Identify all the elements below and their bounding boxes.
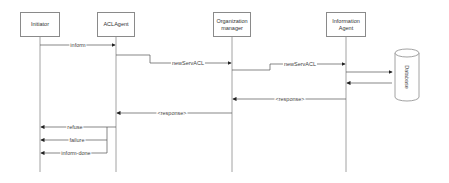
participant-orgmanager: Organization manager	[213, 12, 251, 37]
participant-label: Organization manager	[214, 18, 250, 32]
participant-infoagent: Information Agent	[326, 12, 366, 37]
label-response-2: <response>	[156, 110, 187, 116]
label-failure: failure	[69, 137, 86, 143]
database-label: Database	[404, 65, 410, 89]
participant-label: Information Agent	[327, 18, 365, 32]
label-inform-done: inform-done	[60, 150, 91, 156]
label-inform: inform	[69, 42, 86, 48]
label-newservacl-2: newServACL	[283, 61, 317, 67]
participant-label: Initiator	[31, 21, 49, 28]
label-response-1: <response>	[274, 96, 305, 102]
participant-aclagent: ACLAgent	[97, 12, 135, 37]
participant-label: ACLAgent	[103, 21, 128, 28]
label-newservacl-1: newServACL	[171, 60, 205, 66]
participant-initiator: Initiator	[20, 12, 60, 37]
label-refuse: refuse	[66, 124, 83, 130]
